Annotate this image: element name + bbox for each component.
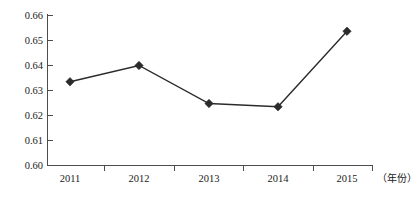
x-tick-label-2011: 2011 xyxy=(60,173,81,184)
y-tick-label-065: 0.65 xyxy=(25,35,43,46)
x-tick-label-2012: 2012 xyxy=(129,173,150,184)
x-tick-label-2014: 2014 xyxy=(268,173,290,184)
line-chart: 0.66 0.65 0.64 0.63 0.62 0.61 0.60 2011 … xyxy=(0,0,417,202)
x-axis-title: （年份） xyxy=(377,172,417,184)
chart-canvas: 0.66 0.65 0.64 0.63 0.62 0.61 0.60 2011 … xyxy=(0,0,417,202)
y-tick-label-066: 0.66 xyxy=(25,10,43,21)
x-tick-label-2015: 2015 xyxy=(337,173,358,184)
y-tick-label-063: 0.63 xyxy=(25,85,43,96)
x-tick-label-2013: 2013 xyxy=(199,173,220,184)
y-tick-label-061: 0.61 xyxy=(25,135,43,146)
y-tick-label-064: 0.64 xyxy=(25,60,44,71)
y-tick-label-060: 0.60 xyxy=(25,160,43,171)
y-tick-label-062: 0.62 xyxy=(25,110,43,121)
